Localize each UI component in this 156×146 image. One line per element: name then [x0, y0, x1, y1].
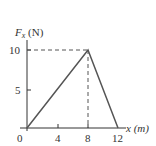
x-axis-label: x (m): [125, 122, 149, 135]
y-tick-label-5: 5: [15, 84, 21, 96]
force-curve: [27, 50, 118, 128]
x-tick-label-4: 4: [55, 132, 61, 144]
x-tick-label-0: 0: [17, 132, 23, 144]
y-tick-label-10: 10: [9, 44, 21, 56]
y-axis-label: Fx (N): [14, 26, 44, 40]
force-position-chart: Fx (N) 10 5 0 4 8 12 x (m): [0, 0, 156, 146]
x-tick-label-12: 12: [112, 132, 123, 144]
x-tick-label-8: 8: [85, 132, 91, 144]
